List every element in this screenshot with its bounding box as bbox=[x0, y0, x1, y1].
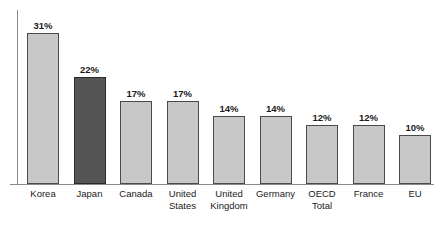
bar-slot: 12% bbox=[346, 10, 392, 184]
bar-value-label: 14% bbox=[219, 103, 238, 114]
bar-slot: 31% bbox=[20, 10, 66, 184]
category-label: United States bbox=[160, 188, 206, 211]
bar[interactable] bbox=[120, 101, 152, 184]
bar-series: 31%22%17%17%14%14%12%12%10% bbox=[20, 10, 438, 184]
bar-slot: 17% bbox=[160, 10, 206, 184]
bar-value-label: 17% bbox=[173, 88, 192, 99]
bar[interactable] bbox=[260, 116, 292, 184]
bar[interactable] bbox=[167, 101, 199, 184]
bar-value-label: 17% bbox=[126, 88, 145, 99]
bar[interactable] bbox=[213, 116, 245, 184]
bar[interactable] bbox=[306, 125, 338, 184]
bar-value-label: 12% bbox=[359, 112, 378, 123]
category-label: United Kingdom bbox=[206, 188, 252, 211]
bar-slot: 12% bbox=[299, 10, 345, 184]
bar-value-label: 14% bbox=[266, 103, 285, 114]
y-axis-line bbox=[17, 10, 18, 185]
category-label: Canada bbox=[113, 188, 159, 200]
bar-slot: 17% bbox=[113, 10, 159, 184]
bar-slot: 14% bbox=[253, 10, 299, 184]
bar-value-label: 12% bbox=[312, 112, 331, 123]
bar[interactable] bbox=[353, 125, 385, 184]
bar[interactable] bbox=[27, 33, 59, 184]
bar-highlighted[interactable] bbox=[74, 77, 106, 184]
bar-slot: 10% bbox=[392, 10, 438, 184]
category-label: EU bbox=[392, 188, 438, 200]
x-axis-category-labels: KoreaJapanCanadaUnited StatesUnited King… bbox=[20, 188, 438, 211]
bar-value-label: 22% bbox=[80, 64, 99, 75]
bar-chart: 31%22%17%17%14%14%12%12%10% KoreaJapanCa… bbox=[0, 0, 444, 229]
category-label: Korea bbox=[20, 188, 66, 200]
x-axis-line bbox=[10, 184, 434, 185]
category-label: OECD Total bbox=[299, 188, 345, 211]
category-label: Japan bbox=[67, 188, 113, 200]
category-label: France bbox=[346, 188, 392, 200]
bar-value-label: 31% bbox=[33, 20, 52, 31]
bar[interactable] bbox=[399, 135, 431, 184]
category-label: Germany bbox=[253, 188, 299, 200]
bar-slot: 22% bbox=[67, 10, 113, 184]
bar-value-label: 10% bbox=[405, 122, 424, 133]
bar-slot: 14% bbox=[206, 10, 252, 184]
